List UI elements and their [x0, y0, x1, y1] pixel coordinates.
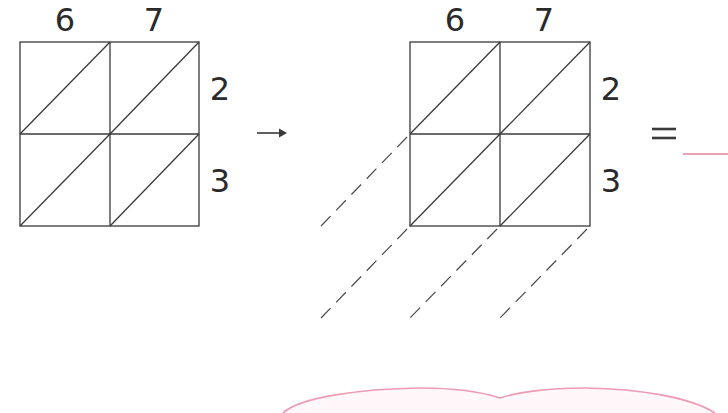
- dashed-guide-4: [500, 229, 587, 318]
- right-diagonal-cell-2: [500, 42, 590, 134]
- right-lattice-grid: [410, 42, 590, 226]
- diagram-canvas: [0, 0, 728, 413]
- right-arrow-icon: [257, 129, 287, 138]
- left-diagonal-cell-3: [20, 134, 110, 226]
- left-top-number-1: 6: [55, 4, 75, 36]
- left-diagonal-cell-2: [110, 42, 199, 134]
- right-top-number-1: 6: [445, 4, 465, 36]
- dashed-guide-1: [321, 137, 407, 226]
- left-diagonal-cell-4: [110, 134, 199, 226]
- right-side-number-2: 3: [601, 165, 621, 197]
- left-side-number-2: 3: [210, 165, 230, 197]
- left-diagonal-cell-1: [20, 42, 110, 134]
- dashed-diagonal-guides: [321, 137, 587, 318]
- right-side-number-1: 2: [601, 73, 621, 105]
- equals-sign: [652, 129, 676, 138]
- left-side-number-1: 2: [210, 73, 230, 105]
- right-diagonal-cell-4: [500, 134, 590, 226]
- lattice-multiplication-diagram: 6 7 2 3 6 7 2 3: [0, 0, 728, 413]
- left-top-number-2: 7: [144, 4, 164, 36]
- right-top-number-2: 7: [534, 4, 554, 36]
- right-diagonal-cell-1: [410, 42, 500, 134]
- left-lattice-grid: [20, 42, 199, 226]
- right-diagonal-cell-3: [410, 134, 500, 226]
- answer-cloud-outline: [283, 388, 715, 413]
- dashed-guide-2: [321, 229, 407, 318]
- dashed-guide-3: [410, 229, 497, 318]
